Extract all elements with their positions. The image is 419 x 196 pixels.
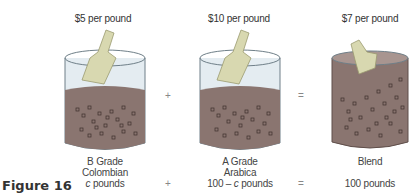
price-label-arabica: $10 per pound <box>189 13 289 24</box>
price-label-colombian: $5 per pound <box>53 13 153 24</box>
origin-text: Colombian <box>50 167 160 178</box>
label-arabica: A Grade Arabica 100 – c pounds <box>185 156 295 189</box>
plus-operator-top: + <box>160 90 176 101</box>
equals-operator-top: = <box>293 90 309 101</box>
colombian-coffee-jar-icon <box>62 28 148 154</box>
origin-text: Arabica <box>185 167 295 178</box>
equals-operator-bottom: = <box>293 178 309 189</box>
grade-text: A Grade <box>185 156 295 167</box>
figure-label: Figure 16 <box>2 178 72 193</box>
price-label-blend: $7 per pound <box>320 13 419 24</box>
plus-operator-bottom: + <box>160 178 176 189</box>
grade-text: B Grade <box>50 156 160 167</box>
label-blend: Blend 100 pounds <box>315 156 419 189</box>
quantity-text: 100 – c pounds <box>185 178 295 189</box>
arabica-coffee-jar-icon <box>197 28 283 154</box>
quantity-text: 100 pounds <box>315 178 419 189</box>
blend-text: Blend <box>315 156 419 167</box>
blend-coffee-jar-icon <box>329 38 411 154</box>
